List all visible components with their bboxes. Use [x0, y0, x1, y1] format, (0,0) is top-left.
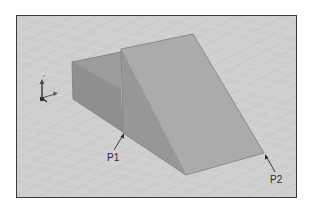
axis-triad-icon: z	[40, 73, 59, 102]
svg-text:z: z	[43, 73, 45, 78]
label-p1: P1	[107, 153, 119, 163]
label-p2: P2	[270, 175, 282, 185]
p1-leader-arrow	[114, 133, 124, 150]
p2-leader-arrow	[265, 154, 275, 172]
3d-model-scene: z	[0, 0, 312, 205]
